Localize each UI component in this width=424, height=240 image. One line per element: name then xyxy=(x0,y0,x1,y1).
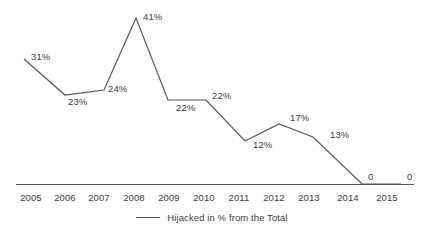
data-label-2006: 23% xyxy=(68,97,87,107)
line-chart: 31% 23% 24% 41% 22% 22% 12% 17% 13% 0 0 … xyxy=(0,0,424,240)
data-label-2005: 31% xyxy=(31,52,50,62)
x-tick-2006: 2006 xyxy=(48,193,82,203)
data-label-2010: 22% xyxy=(212,91,231,101)
x-tick-2005: 2005 xyxy=(14,193,48,203)
chart-plot-area xyxy=(0,0,424,240)
data-label-2009: 22% xyxy=(176,103,195,113)
legend-line-swatch-icon xyxy=(136,217,160,218)
x-tick-2015: 2015 xyxy=(370,193,404,203)
data-label-2012: 17% xyxy=(290,113,309,123)
x-tick-2012: 2012 xyxy=(257,193,291,203)
x-tick-2014: 2014 xyxy=(331,193,365,203)
data-label-2015: 0 xyxy=(407,172,412,182)
x-tick-2009: 2009 xyxy=(152,193,186,203)
x-tick-2011: 2011 xyxy=(222,193,256,203)
data-label-2014: 0 xyxy=(368,172,373,182)
data-label-2008: 41% xyxy=(143,12,162,22)
x-tick-2007: 2007 xyxy=(82,193,116,203)
x-tick-2010: 2010 xyxy=(187,193,221,203)
x-tick-2013: 2013 xyxy=(292,193,326,203)
chart-legend: Hijacked in % from the Total xyxy=(0,213,424,223)
data-label-2007: 24% xyxy=(108,84,127,94)
data-label-2013: 13% xyxy=(330,130,349,140)
data-label-2011: 12% xyxy=(253,140,272,150)
legend-item-label: Hijacked in % from the Total xyxy=(167,213,287,223)
x-tick-2008: 2008 xyxy=(117,193,151,203)
